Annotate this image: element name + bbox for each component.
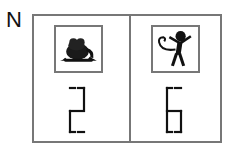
picture-box-monkey <box>151 25 200 73</box>
monkey-icon <box>153 27 198 71</box>
cell-frog: 2 <box>34 16 129 141</box>
dashed-digit-6: 6 <box>163 86 185 134</box>
frog-icon <box>56 27 101 71</box>
card-frame: 2 <box>32 14 222 143</box>
picture-box-frog <box>54 25 103 73</box>
dashed-digit-2: 2 <box>66 86 88 134</box>
row-label: N <box>6 9 22 31</box>
cell-monkey: 6 <box>131 16 222 141</box>
